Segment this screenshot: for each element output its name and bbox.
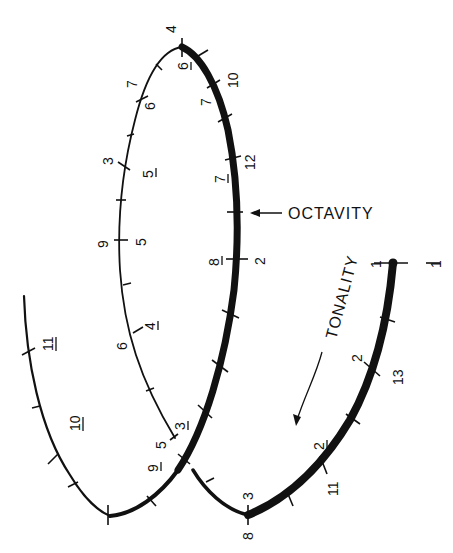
svg-text:3: 3 [240, 492, 256, 500]
svg-text:7: 7 [212, 175, 228, 183]
tonality-thick-curve [248, 263, 393, 515]
svg-text:5: 5 [133, 238, 149, 246]
svg-text:12: 12 [242, 154, 258, 170]
svg-text:3: 3 [100, 157, 116, 165]
bottom-left-loop [110, 470, 178, 516]
tonality-callout: TONALITY [293, 253, 361, 426]
svg-text:9: 9 [95, 240, 111, 248]
svg-text:5: 5 [153, 441, 169, 449]
svg-text:5: 5 [140, 170, 156, 178]
svg-text:11: 11 [325, 481, 341, 496]
svg-text:2: 2 [349, 354, 365, 362]
svg-text:2: 2 [252, 257, 268, 265]
octavity-callout: OCTAVITY [250, 205, 374, 222]
svg-text:11: 11 [40, 336, 56, 351]
svg-text:13: 13 [390, 369, 406, 385]
svg-text:7: 7 [124, 80, 140, 88]
octavity-label: OCTAVITY [288, 205, 374, 222]
svg-text:6: 6 [142, 102, 158, 110]
svg-text:9: 9 [145, 464, 161, 472]
svg-text:8: 8 [206, 258, 222, 266]
svg-text:4: 4 [163, 25, 179, 33]
svg-text:7: 7 [198, 98, 214, 106]
tonality-label: TONALITY [322, 253, 361, 340]
svg-text:10: 10 [225, 72, 241, 88]
svg-text:6: 6 [175, 62, 191, 70]
svg-text:3: 3 [172, 422, 188, 430]
tick-labels: 4 6 10 7 7 6 3 5 12 7 9 5 8 2 6 4 3 5 9 … [40, 25, 444, 540]
svg-text:6: 6 [114, 342, 130, 350]
svg-text:10: 10 [67, 415, 83, 431]
svg-text:1: 1 [428, 260, 444, 268]
svg-text:4: 4 [142, 322, 158, 330]
svg-text:8: 8 [240, 532, 256, 540]
svg-text:2: 2 [311, 442, 327, 450]
ticks [22, 38, 440, 525]
svg-text:1: 1 [368, 260, 384, 268]
pitch-helix-diagram: OCTAVITY TONALITY 4 6 10 7 7 6 3 5 12 7 … [0, 0, 453, 553]
